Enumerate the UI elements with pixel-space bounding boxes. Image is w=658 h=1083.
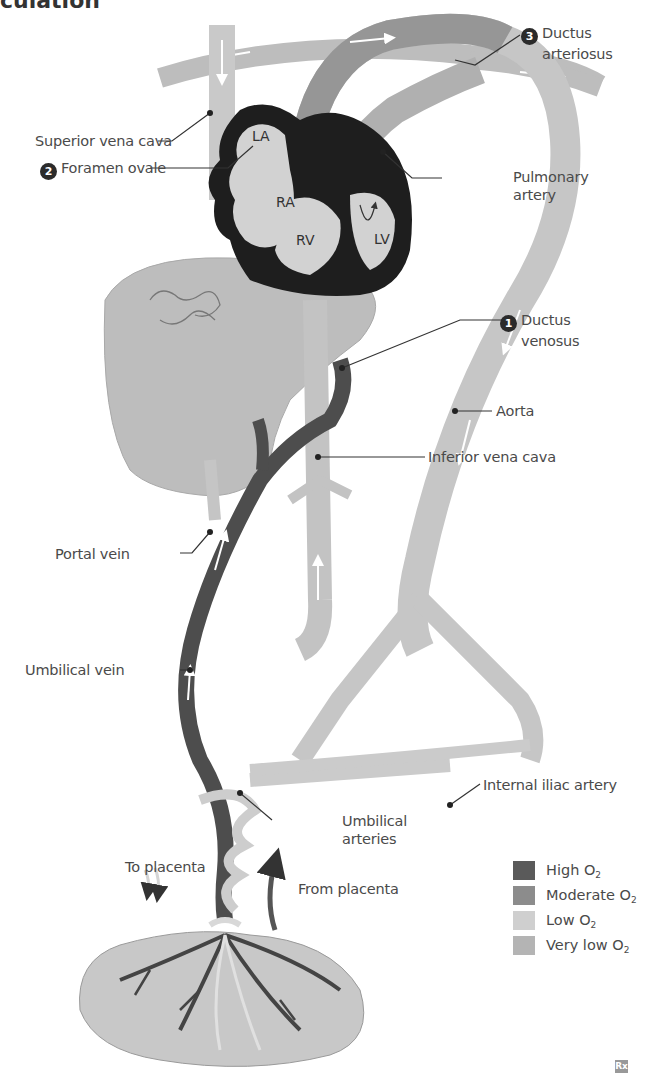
rx-logo-icon: Rx bbox=[615, 1060, 628, 1073]
label-ductus-arteriosus: 3Ductus arteriosus bbox=[521, 24, 613, 63]
iliac-arteries bbox=[250, 600, 533, 780]
label-internal-iliac-artery: Internal iliac artery bbox=[483, 776, 617, 794]
from-placenta-arrow-icon bbox=[270, 862, 275, 930]
legend-swatch-low bbox=[513, 911, 535, 930]
chamber-label-la: LA bbox=[252, 128, 270, 144]
legend-item-high: High O2 bbox=[513, 858, 637, 883]
legend-swatch-moderate bbox=[513, 886, 535, 905]
label-umbilical-arteries: Umbilical arteries bbox=[342, 812, 407, 848]
callout-number-1: 1 bbox=[500, 315, 517, 332]
chamber-label-lv: LV bbox=[374, 231, 390, 247]
legend-item-low: Low O2 bbox=[513, 908, 637, 933]
legend-swatch-high bbox=[513, 861, 535, 880]
legend-item-moderate: Moderate O2 bbox=[513, 883, 637, 908]
label-foramen-ovale: 2Foramen ovale bbox=[40, 159, 166, 180]
legend-item-very-low: Very low O2 bbox=[513, 933, 637, 958]
label-to-placenta: To placenta bbox=[125, 858, 205, 876]
placenta bbox=[80, 932, 364, 1067]
label-superior-vena-cava: Superior vena cava bbox=[35, 132, 172, 150]
chamber-label-ra: RA bbox=[276, 194, 295, 210]
fetal-circulation-diagram: culation bbox=[0, 0, 658, 1083]
label-from-placenta: From placenta bbox=[298, 880, 399, 898]
portal-vein bbox=[210, 460, 215, 520]
label-aorta: Aorta bbox=[496, 402, 534, 420]
label-umbilical-vein: Umbilical vein bbox=[25, 661, 124, 679]
label-inferior-vena-cava: Inferior vena cava bbox=[428, 448, 556, 466]
label-ductus-venosus: 1Ductus venosus bbox=[500, 311, 579, 350]
label-pulmonary-artery: Pulmonary artery bbox=[513, 168, 589, 204]
legend-swatch-very-low bbox=[513, 936, 535, 955]
placenta-cord-ring bbox=[210, 920, 240, 925]
label-portal-vein: Portal vein bbox=[55, 545, 130, 563]
chamber-label-rv: RV bbox=[296, 232, 315, 248]
callout-number-2: 2 bbox=[40, 163, 57, 180]
oxygen-legend: High O2 Moderate O2 Low O2 Very low O2 bbox=[513, 858, 637, 958]
callout-number-3: 3 bbox=[521, 28, 538, 45]
